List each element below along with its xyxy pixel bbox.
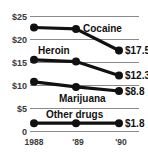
line-chart: $25 $20 $15 $10 $5 0: [0, 0, 148, 153]
end-value-marijuana: $8.8: [125, 86, 145, 97]
series-cocaine-point-90: [115, 47, 123, 55]
series-heroin-point-1988: [30, 56, 38, 64]
series-heroin-point-89: [72, 58, 80, 66]
y-tick-5: $5: [17, 104, 27, 114]
y-tick-20: $20: [12, 35, 27, 45]
y-tick-10: $10: [12, 81, 27, 91]
series-other-drugs-point-1988: [30, 119, 38, 127]
series-other-drugs-point-90: [115, 119, 123, 127]
x-tick-90: '90: [115, 137, 127, 147]
series-label-cocaine: Cocaine: [83, 23, 122, 34]
series-cocaine-point-89: [72, 25, 80, 33]
y-tick-25: $25: [12, 12, 27, 22]
series-other-drugs: [30, 119, 123, 127]
series-label-other-drugs: Other drugs: [46, 109, 104, 120]
end-value-other-drugs: $1.8: [125, 118, 145, 129]
series-heroin-point-90: [115, 71, 123, 79]
series-label-heroin: Heroin: [38, 45, 70, 56]
end-value-heroin: $12.3: [125, 70, 148, 81]
series-cocaine-point-1988: [30, 24, 38, 32]
chart-canvas: $25 $20 $15 $10 $5 0: [0, 0, 148, 153]
y-axis-labels: $25 $20 $15 $10 $5 0: [12, 12, 27, 137]
x-tick-89: '89: [72, 137, 84, 147]
series-marijuana-point-90: [115, 87, 123, 95]
series-heroin: [30, 56, 123, 80]
end-value-cocaine: $17.5: [125, 45, 148, 56]
y-tick-0: 0: [22, 127, 27, 137]
end-value-labels: $17.5 $12.3 $8.8 $1.8: [125, 45, 148, 129]
series-marijuana-point-1988: [30, 78, 38, 86]
x-axis-labels: 1988 '89 '90: [25, 137, 127, 147]
x-tick-1988: 1988: [25, 137, 44, 147]
series-label-marijuana: Marijuana: [59, 93, 106, 104]
series-other-drugs-point-89: [72, 119, 80, 127]
series-marijuana-point-89: [72, 83, 80, 91]
y-tick-15: $15: [12, 58, 27, 68]
